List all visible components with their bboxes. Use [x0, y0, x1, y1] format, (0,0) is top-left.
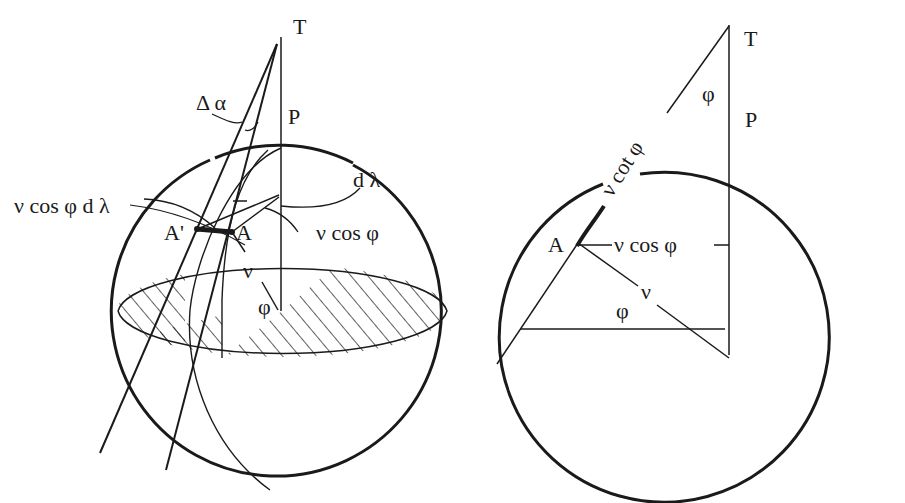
- normal-line-lower: [657, 305, 729, 358]
- label-nu-cos-phi-d-lambda: ν cos φ d λ: [14, 193, 110, 218]
- label-delta-alpha: Δ α: [196, 90, 226, 115]
- label-phi-top: φ: [702, 81, 715, 106]
- label-d-lambda: d λ: [353, 167, 381, 192]
- tangent-upper: [667, 26, 729, 113]
- d-lambda-leader: [281, 188, 360, 207]
- segment-a-prime-a: [197, 229, 232, 232]
- label-nu: ν: [243, 258, 253, 283]
- meridian-circle: [499, 172, 829, 502]
- right-section-diagram: T φ P ν cot φ A ν cos φ ν φ: [497, 25, 829, 502]
- label-p-right: P: [745, 107, 757, 132]
- label-a: A: [236, 220, 252, 245]
- label-p: P: [288, 104, 300, 129]
- label-a-right: A: [548, 232, 564, 257]
- sphere-outline-top: [215, 145, 353, 163]
- equatorial-plane-hatch: [118, 250, 460, 360]
- arc-near-a: [577, 206, 604, 246]
- label-a-prime: A': [164, 220, 184, 245]
- diagram-svg: T P Δ α d λ ν cos φ d λ ν cos φ A' A ν φ…: [0, 0, 905, 503]
- label-nu-cos-phi-right: ν cos φ: [614, 232, 677, 257]
- label-phi-bottom: φ: [616, 298, 629, 323]
- tangent-line-1: [100, 44, 277, 453]
- left-sphere-diagram: T P Δ α d λ ν cos φ d λ ν cos φ A' A ν φ: [14, 14, 460, 490]
- tangent-lower: [497, 243, 578, 364]
- delta-alpha-leader: [212, 114, 242, 123]
- point-a-prime: [194, 226, 200, 232]
- label-nu-right: ν: [641, 279, 651, 304]
- meridian-arc-2: [222, 150, 268, 358]
- label-t: T: [293, 14, 307, 39]
- label-nu-cot-phi: ν cot φ: [595, 136, 648, 201]
- diagram-canvas: T P Δ α d λ ν cos φ d λ ν cos φ A' A ν φ…: [0, 0, 905, 503]
- label-nu-cos-phi: ν cos φ: [316, 220, 379, 245]
- label-t-right: T: [744, 26, 758, 51]
- label-phi: φ: [258, 294, 271, 319]
